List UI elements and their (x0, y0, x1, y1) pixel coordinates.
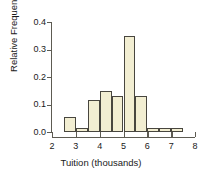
histogram-bar (88, 100, 100, 132)
y-axis-tick-labels: 0.00.10.20.30.4 (22, 0, 46, 182)
y-axis-tick-label: 0.0 (24, 128, 46, 137)
x-axis-tick-mark (100, 132, 101, 137)
x-axis-tick-mark (147, 132, 148, 137)
y-axis-tick-label: 0.2 (24, 73, 46, 82)
x-axis-tick-label: 3 (68, 141, 84, 152)
plot-area (52, 22, 195, 132)
y-axis-tick-mark (47, 105, 52, 106)
x-axis-tick-mark (195, 132, 196, 137)
x-axis-tick-mark (171, 132, 172, 137)
x-axis-tick-label: 7 (163, 141, 179, 152)
x-axis-tick-label: 6 (139, 141, 155, 152)
y-axis-tick-mark (47, 77, 52, 78)
histogram-bar (124, 36, 136, 132)
histogram-bar (112, 96, 124, 132)
histogram-bar (159, 128, 171, 132)
histogram-bar (135, 96, 147, 132)
y-axis-tick-label: 0.4 (24, 18, 46, 27)
histogram-bar (171, 128, 183, 132)
y-axis-tick-label: 0.3 (24, 45, 46, 54)
x-axis-tick-mark (52, 132, 53, 137)
y-axis-tick-label: 0.1 (24, 100, 46, 109)
x-axis-tick-mark (76, 132, 77, 137)
y-axis-tick-mark (47, 22, 52, 23)
histogram-bar (64, 117, 76, 132)
x-axis-tick-label: 2 (44, 141, 60, 152)
histogram-bar (76, 128, 88, 132)
x-axis-tick-label: 4 (92, 141, 108, 152)
x-axis-tick-label: 5 (116, 141, 132, 152)
y-axis-tick-mark (47, 50, 52, 51)
histogram-bar (147, 128, 159, 132)
x-axis-title: Tuition (thousands) (0, 157, 202, 168)
y-axis-title: Relative Frequency (7, 0, 21, 87)
x-axis-tick-label: 8 (187, 141, 202, 152)
histogram-chart: Relative Frequency 0.00.10.20.30.4 Tuiti… (0, 0, 202, 182)
x-axis-tick-mark (124, 132, 125, 137)
x-axis-line (52, 137, 195, 138)
histogram-bar (100, 91, 112, 132)
